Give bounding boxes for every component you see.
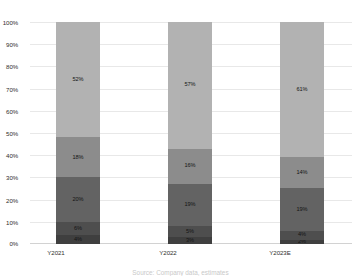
x-tick-y2023e: Y2023E: [240, 249, 320, 256]
bar-segment[interactable]: 52%: [56, 22, 100, 137]
bar-column-y2023e[interactable]: 61% 14% 19% 4% 2%: [280, 22, 324, 244]
bar-segment-label: 57%: [185, 82, 196, 88]
bar-segment[interactable]: 3%: [168, 237, 212, 244]
y-tick-100: 100%: [0, 19, 18, 26]
bar-segment-label: 2%: [298, 240, 306, 244]
bar-segment[interactable]: 4%: [56, 235, 100, 244]
bar-segment[interactable]: 19%: [168, 184, 212, 226]
bar-segment-label: 14%: [297, 170, 308, 176]
y-tick-10: 10%: [0, 218, 18, 225]
y-tick-50: 50%: [0, 130, 18, 137]
bar-segment-label: 19%: [297, 207, 308, 213]
plot-area: 100% 90% 80% 70% 60% 50% 40% 30% 20% 10%…: [30, 22, 352, 244]
y-tick-20: 20%: [0, 196, 18, 203]
bar-segment-label: 18%: [73, 155, 84, 161]
bar-column-y2021[interactable]: 52% 18% 20% 6% 4%: [56, 22, 100, 244]
bar-segment-label: 19%: [185, 202, 196, 208]
bar-segment[interactable]: 61%: [280, 22, 324, 157]
bar-segment-label: 4%: [298, 232, 306, 238]
stacked-bar-chart: 100% 90% 80% 70% 60% 50% 40% 30% 20% 10%…: [0, 0, 361, 276]
bar-segment-label: 52%: [73, 77, 84, 83]
y-tick-40: 40%: [0, 152, 18, 159]
bar-segment-label: 6%: [74, 226, 82, 232]
bar-segment[interactable]: 18%: [56, 137, 100, 177]
bar-segment-label: 3%: [186, 238, 194, 244]
x-tick-y2021: Y2021: [16, 249, 96, 256]
bar-segment[interactable]: 2%: [280, 240, 324, 244]
bar-segment[interactable]: 16%: [168, 149, 212, 185]
bar-segment[interactable]: 6%: [56, 222, 100, 235]
bar-segment[interactable]: 19%: [280, 188, 324, 230]
x-tick-y2022: Y2022: [128, 249, 208, 256]
y-tick-0: 0%: [0, 240, 18, 247]
bar-segment-label: 4%: [74, 237, 82, 243]
y-tick-60: 60%: [0, 107, 18, 114]
bar-segment[interactable]: 5%: [168, 226, 212, 237]
chart-caption: Source: Company data, estimates: [0, 267, 361, 276]
bar-segment-label: 61%: [297, 87, 308, 93]
y-tick-70: 70%: [0, 85, 18, 92]
bar-segment-label: 16%: [185, 163, 196, 169]
bar-segment-label: 20%: [73, 197, 84, 203]
bar-segment[interactable]: 4%: [280, 231, 324, 240]
bar-segment[interactable]: 20%: [56, 177, 100, 221]
y-tick-90: 90%: [0, 41, 18, 48]
bar-column-y2022[interactable]: 57% 16% 19% 5% 3%: [168, 22, 212, 244]
bar-segment[interactable]: 14%: [280, 157, 324, 188]
y-tick-80: 80%: [0, 63, 18, 70]
bar-segment-label: 5%: [186, 229, 194, 235]
bar-segment[interactable]: 57%: [168, 22, 212, 149]
y-tick-30: 30%: [0, 174, 18, 181]
